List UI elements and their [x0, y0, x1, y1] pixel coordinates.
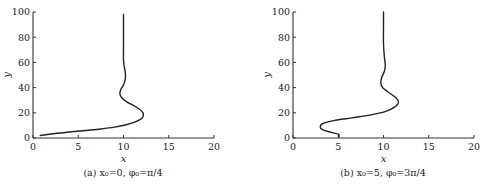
- x-axis-label: x: [121, 153, 127, 164]
- y-axis-label: y: [261, 72, 272, 79]
- y-tick-label: 80: [18, 32, 30, 43]
- y-tick-label: 40: [18, 82, 30, 93]
- y-tick-label: 60: [18, 57, 30, 68]
- x-tick-label: 0: [30, 141, 36, 152]
- x-tick-label: 20: [468, 141, 480, 152]
- x-tick-label: 0: [290, 141, 296, 152]
- x-tick-label: 15: [163, 141, 175, 152]
- x-tick-label: 10: [117, 141, 129, 152]
- y-tick-label: 60: [278, 57, 290, 68]
- x-axis-label: x: [381, 153, 387, 164]
- x-tick-label: 20: [208, 141, 220, 152]
- y-tick-label: 20: [18, 107, 30, 118]
- y-axis-label: y: [1, 72, 12, 79]
- trajectory-line: [40, 15, 143, 136]
- trajectory-line: [320, 12, 398, 137]
- y-tick-label: 80: [278, 32, 290, 43]
- chart-figure: 02040608010005101520xy(a) x₀=0, φ₀=π/4 0…: [0, 0, 483, 189]
- panel-caption: (a) x₀=0, φ₀=π/4: [83, 167, 162, 178]
- x-tick-label: 5: [75, 141, 81, 152]
- x-tick-label: 15: [423, 141, 435, 152]
- x-tick-label: 10: [377, 141, 389, 152]
- y-tick-label: 20: [278, 107, 290, 118]
- x-tick-label: 5: [335, 141, 341, 152]
- y-tick-label: 40: [278, 82, 290, 93]
- y-tick-label: 100: [272, 6, 290, 17]
- panel-a: 02040608010005101520xy(a) x₀=0, φ₀=π/4: [1, 6, 220, 178]
- panel-caption: (b) x₀=5, φ₀=3π/4: [340, 167, 426, 178]
- y-tick-label: 100: [12, 6, 30, 17]
- panel-b: 02040608010005101520xy(b) x₀=5, φ₀=3π/4: [261, 6, 480, 178]
